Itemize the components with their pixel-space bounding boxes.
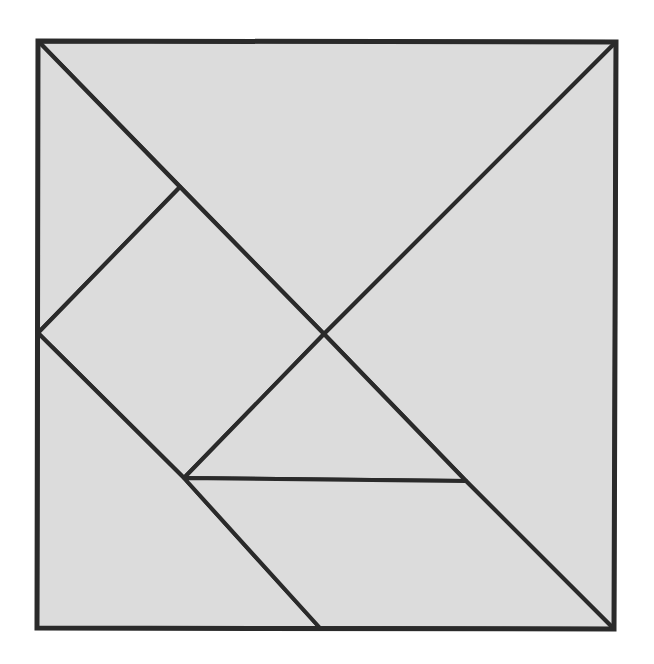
tangram-diagram: [0, 0, 654, 664]
tangram-pieces: [37, 41, 616, 629]
